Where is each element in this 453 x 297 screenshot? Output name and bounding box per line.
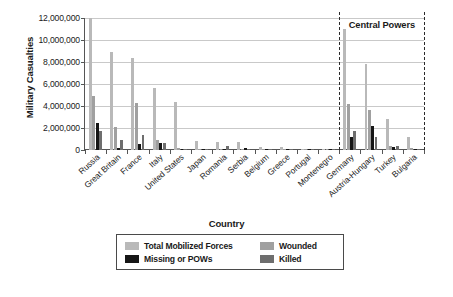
bar-group	[216, 18, 229, 150]
bar-group	[131, 18, 144, 150]
legend-swatch-icon	[125, 242, 139, 250]
bar-group	[343, 18, 356, 150]
legend-swatch-icon	[260, 242, 274, 250]
bar	[332, 149, 335, 150]
bar	[184, 149, 187, 150]
central-powers-divider-left	[339, 12, 340, 150]
bar	[269, 149, 272, 150]
legend-entry-killed: Killed	[260, 254, 337, 264]
y-tick-label: 8,000,000	[24, 57, 80, 67]
bar-group	[110, 18, 123, 150]
y-tick-label: 0	[24, 145, 80, 155]
bar	[205, 149, 208, 150]
y-tick-label: 4,000,000	[24, 101, 80, 111]
bar	[163, 143, 166, 150]
y-tick-label: 10,000,000	[24, 35, 80, 45]
y-tick-label: 2,000,000	[24, 123, 80, 133]
bar	[135, 103, 138, 150]
bar	[247, 149, 250, 150]
bar	[120, 140, 123, 150]
x-axis-tick-labels: RussiaGreat BritainFranceItalyUnited Sta…	[84, 152, 424, 212]
legend-swatch-icon	[260, 255, 274, 263]
bar-group	[259, 18, 272, 150]
y-tick-mark	[81, 84, 85, 85]
y-tick-label: 12,000,000	[24, 13, 80, 23]
bar-group	[301, 18, 314, 150]
x-tick-mark	[424, 150, 425, 154]
bar	[396, 146, 399, 150]
legend-label: Wounded	[279, 241, 317, 251]
y-tick-mark	[81, 18, 85, 19]
bar	[142, 135, 145, 150]
bar	[375, 137, 378, 150]
central-powers-annotation: Central Powers	[349, 20, 415, 30]
legend-row: Total Mobilized Forces Wounded	[125, 239, 337, 252]
bar-group	[174, 18, 187, 150]
bar-group	[280, 18, 293, 150]
bar	[99, 131, 102, 150]
chart-figure: Military Casualties 02,000,0004,000,0006…	[0, 0, 453, 297]
bar-group	[365, 18, 378, 150]
bar-group	[153, 18, 166, 150]
bar	[174, 102, 177, 150]
bar	[311, 149, 314, 150]
y-tick-mark	[81, 62, 85, 63]
central-powers-divider-right	[424, 12, 425, 150]
bar-group	[407, 18, 420, 150]
bar	[417, 149, 420, 150]
bar-group	[386, 18, 399, 150]
x-axis-title: Country	[0, 218, 453, 229]
y-tick-mark	[81, 40, 85, 41]
bar-group	[237, 18, 250, 150]
chart-legend: Total Mobilized Forces Wounded Missing o…	[116, 234, 344, 270]
bar-group	[195, 18, 208, 150]
y-tick-mark	[81, 128, 85, 129]
bar	[353, 131, 356, 151]
legend-entry-total-mobilized-forces: Total Mobilized Forces	[125, 241, 260, 251]
bar	[290, 149, 293, 150]
y-axis-tick-labels: 02,000,0004,000,0006,000,0008,000,00010,…	[24, 18, 80, 150]
legend-entry-missing-or-pows: Missing or POWs	[125, 254, 260, 264]
legend-swatch-icon	[125, 255, 139, 263]
plot-area: Central Powers	[84, 18, 424, 150]
bar-group	[89, 18, 102, 150]
legend-row: Missing or POWs Killed	[125, 252, 337, 265]
bar-group	[322, 18, 335, 150]
y-tick-label: 6,000,000	[24, 79, 80, 89]
legend-label: Missing or POWs	[144, 254, 212, 264]
y-tick-mark	[81, 106, 85, 107]
legend-label: Killed	[279, 254, 302, 264]
bar	[226, 146, 229, 150]
legend-entry-wounded: Wounded	[260, 241, 337, 251]
legend-label: Total Mobilized Forces	[144, 241, 233, 251]
bar	[114, 127, 117, 150]
